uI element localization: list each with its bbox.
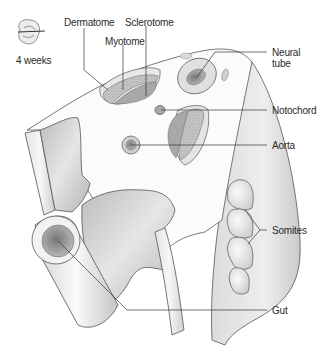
label-aorta: Aorta [272,140,295,151]
label-gut: Gut [272,305,288,316]
label-somites: Somites [272,225,307,236]
label-neural-tube: Neural tube [272,47,300,69]
embryo-cross-section-diagram: 4 weeks Dermatome Myotome Sclerotome Neu… [0,0,326,351]
label-sclerotome: Sclerotome [125,17,174,28]
inner-wall-strip [155,228,184,335]
label-dermatome: Dermatome [64,17,114,28]
label-notochord: Notochord [272,105,316,116]
age-label: 4 weeks [16,55,51,66]
label-neural-tube-line2: tube [272,58,300,69]
label-myotome: Myotome [105,36,145,47]
label-neural-tube-line1: Neural [272,47,300,58]
embryo-icon [18,20,45,44]
